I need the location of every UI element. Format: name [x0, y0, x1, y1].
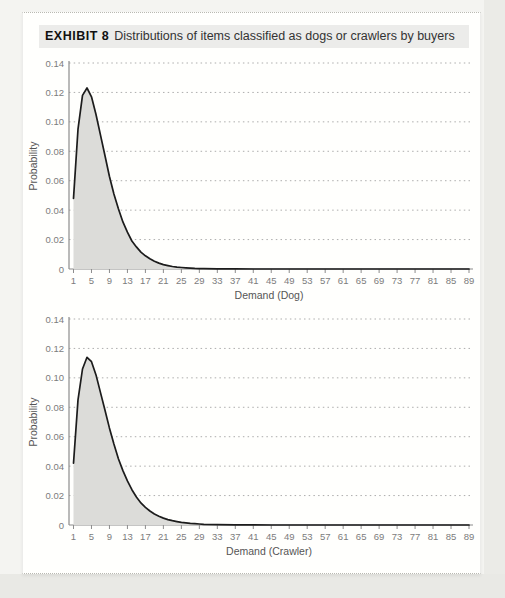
x-tick-label: 69 [374, 531, 385, 542]
x-tick-label: 85 [446, 531, 457, 542]
x-tick-label: 25 [176, 531, 187, 542]
x-tick-label: 73 [392, 531, 403, 542]
x-tick-label: 13 [122, 275, 133, 286]
x-tick-label: 13 [122, 531, 133, 542]
x-tick-label: 65 [356, 275, 367, 286]
y-tick-label: 0.04 [46, 205, 65, 216]
exhibit-number-label: EXHIBIT 8 [45, 29, 109, 43]
exhibit-title-bar: EXHIBIT 8Distributions of items classifi… [39, 25, 469, 48]
x-tick-label: 9 [107, 275, 112, 286]
x-tick-label: 65 [356, 531, 367, 542]
x-tick-label: 21 [158, 275, 169, 286]
y-tick-label: 0 [59, 264, 64, 275]
x-tick-label: 69 [374, 275, 385, 286]
x-tick-label: 29 [194, 531, 205, 542]
y-tick-label: 0.02 [46, 234, 65, 245]
y-tick-label: 0.04 [46, 461, 65, 472]
x-tick-label: 37 [230, 531, 241, 542]
y-tick-label: 0.10 [46, 116, 65, 127]
page-right-margin-band [484, 0, 505, 598]
x-tick-label: 33 [212, 531, 223, 542]
y-axis-label: Probability [27, 397, 39, 447]
x-tick-label: 33 [212, 275, 223, 286]
dog-distribution-chart: 00.020.040.060.080.100.120.1415913172125… [24, 56, 479, 301]
y-tick-label: 0.10 [46, 372, 65, 383]
y-tick-label: 0.08 [46, 402, 65, 413]
x-axis-label: Demand (Crawler) [226, 545, 312, 557]
exhibit-title-text: Distributions of items classified as dog… [114, 29, 454, 43]
x-tick-label: 9 [107, 531, 112, 542]
y-tick-label: 0.12 [46, 343, 65, 354]
crawler-distribution-area [74, 357, 470, 525]
x-axis-label: Demand (Dog) [235, 289, 304, 301]
x-tick-label: 81 [428, 275, 439, 286]
x-tick-label: 29 [194, 275, 205, 286]
y-tick-label: 0.06 [46, 431, 65, 442]
x-tick-label: 17 [140, 275, 151, 286]
x-tick-label: 25 [176, 275, 187, 286]
y-tick-label: 0.08 [46, 146, 65, 157]
x-tick-label: 41 [248, 275, 259, 286]
y-tick-label: 0.14 [46, 314, 65, 325]
x-tick-label: 37 [230, 275, 241, 286]
x-tick-label: 5 [89, 531, 94, 542]
y-axis-label: Probability [27, 141, 39, 191]
page-bottom-margin-band [0, 574, 505, 598]
y-tick-label: 0.12 [46, 87, 65, 98]
x-tick-label: 17 [140, 531, 151, 542]
x-tick-label: 57 [320, 531, 331, 542]
x-tick-label: 5 [89, 275, 94, 286]
x-tick-label: 1 [71, 275, 76, 286]
exhibit-card: EXHIBIT 8Distributions of items classifi… [22, 12, 481, 574]
x-tick-label: 77 [410, 531, 421, 542]
y-tick-label: 0.02 [46, 490, 65, 501]
x-tick-label: 45 [266, 275, 277, 286]
crawler-distribution-chart: 00.020.040.060.080.100.120.1415913172125… [24, 312, 479, 557]
x-tick-label: 61 [338, 275, 349, 286]
x-tick-label: 85 [446, 275, 457, 286]
x-tick-label: 73 [392, 275, 403, 286]
x-tick-label: 53 [302, 531, 313, 542]
x-tick-label: 61 [338, 531, 349, 542]
dog-distribution-curve [74, 88, 470, 269]
x-tick-label: 53 [302, 275, 313, 286]
x-tick-label: 49 [284, 275, 295, 286]
x-tick-label: 89 [464, 275, 475, 286]
x-tick-label: 81 [428, 531, 439, 542]
x-tick-label: 89 [464, 531, 475, 542]
x-tick-label: 21 [158, 531, 169, 542]
x-tick-label: 41 [248, 531, 259, 542]
x-tick-label: 1 [71, 531, 76, 542]
y-tick-label: 0.06 [46, 175, 65, 186]
y-tick-label: 0 [59, 520, 64, 531]
x-tick-label: 49 [284, 531, 295, 542]
x-tick-label: 57 [320, 275, 331, 286]
x-tick-label: 45 [266, 531, 277, 542]
x-tick-label: 77 [410, 275, 421, 286]
y-tick-label: 0.14 [46, 58, 65, 69]
